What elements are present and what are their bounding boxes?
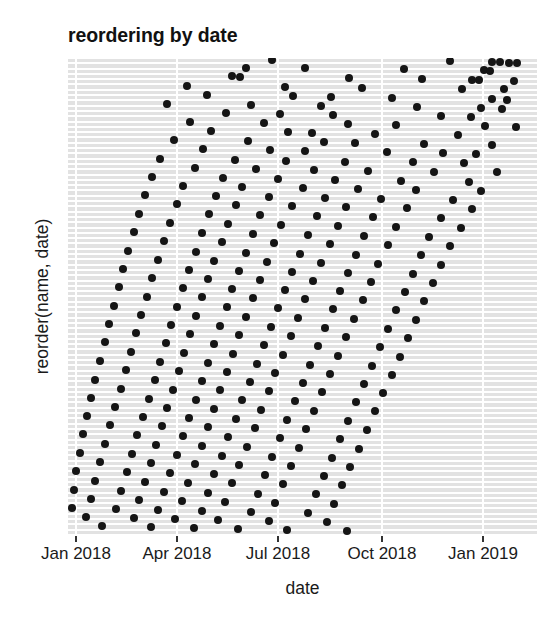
data-point <box>274 175 282 183</box>
data-point <box>128 450 136 458</box>
data-point <box>360 232 368 240</box>
data-point <box>363 426 371 434</box>
data-point <box>173 303 181 311</box>
data-point <box>329 305 337 313</box>
data-point <box>207 127 215 135</box>
data-point <box>91 376 99 384</box>
data-point <box>334 352 342 360</box>
x-tick-mark <box>381 536 383 542</box>
data-point <box>96 458 104 466</box>
data-point <box>288 268 296 276</box>
data-point <box>486 67 494 75</box>
data-point <box>454 131 462 139</box>
data-point <box>235 331 243 339</box>
data-point <box>218 452 226 460</box>
data-point <box>336 435 344 443</box>
data-point <box>263 258 271 266</box>
data-point <box>279 351 287 359</box>
data-point <box>219 174 227 182</box>
data-point <box>513 59 521 67</box>
data-point <box>420 140 428 148</box>
data-point <box>224 433 232 441</box>
data-point <box>403 204 411 212</box>
data-point <box>279 480 287 488</box>
data-point <box>249 294 257 302</box>
data-point <box>295 444 303 452</box>
data-point <box>130 514 138 522</box>
data-point <box>310 166 318 174</box>
data-point <box>251 424 259 432</box>
data-point <box>301 64 309 72</box>
data-point <box>72 467 80 475</box>
data-point <box>205 210 213 218</box>
data-point <box>179 182 187 190</box>
data-point <box>282 157 290 165</box>
data-point <box>184 479 192 487</box>
data-point <box>352 398 360 406</box>
data-point <box>199 145 207 153</box>
data-point <box>268 58 276 64</box>
data-point <box>105 320 113 328</box>
data-point <box>148 173 156 181</box>
data-point <box>214 516 222 524</box>
data-point <box>500 85 508 93</box>
data-point <box>320 138 328 146</box>
data-point <box>409 158 417 166</box>
data-point <box>388 371 396 379</box>
data-point <box>401 288 409 296</box>
x-tick-label: Jul 2018 <box>246 544 310 564</box>
data-point <box>218 238 226 246</box>
data-point <box>457 224 465 232</box>
data-point <box>345 74 353 82</box>
data-point <box>198 507 206 515</box>
data-point <box>328 454 336 462</box>
data-point <box>268 453 276 461</box>
data-point <box>327 93 335 101</box>
data-point <box>191 164 199 172</box>
data-point <box>465 178 473 186</box>
data-point <box>228 479 236 487</box>
x-tick-mark <box>277 536 279 542</box>
data-point <box>512 123 520 131</box>
data-point <box>265 387 273 395</box>
data-point <box>179 432 187 440</box>
data-point <box>228 72 236 80</box>
data-point <box>488 58 496 66</box>
data-point <box>154 256 162 264</box>
data-point <box>488 141 496 149</box>
data-point <box>192 248 200 256</box>
data-point <box>190 524 198 532</box>
data-point <box>101 440 109 448</box>
data-point <box>309 277 317 285</box>
data-point <box>350 315 358 323</box>
data-point <box>326 240 334 248</box>
data-point <box>323 518 331 526</box>
data-point <box>329 111 337 119</box>
data-point <box>294 314 302 322</box>
data-point <box>354 185 362 193</box>
data-point <box>147 523 155 531</box>
data-point <box>235 461 243 469</box>
data-point <box>130 228 138 236</box>
data-point <box>458 85 466 93</box>
data-point <box>383 148 391 156</box>
data-point <box>83 412 91 420</box>
data-point <box>301 295 309 303</box>
data-point <box>437 112 445 120</box>
x-tick-mark <box>176 536 178 542</box>
data-point <box>185 266 193 274</box>
data-point <box>228 285 236 293</box>
data-point <box>192 396 200 404</box>
data-point <box>216 322 224 330</box>
data-point <box>299 184 307 192</box>
data-point <box>79 430 87 438</box>
data-point <box>477 187 485 195</box>
data-point <box>170 136 178 144</box>
data-point <box>369 213 377 221</box>
data-point <box>342 203 350 211</box>
data-point <box>371 407 379 415</box>
data-point <box>158 422 166 430</box>
data-point <box>204 359 212 367</box>
data-point <box>112 505 120 513</box>
data-point <box>223 303 231 311</box>
